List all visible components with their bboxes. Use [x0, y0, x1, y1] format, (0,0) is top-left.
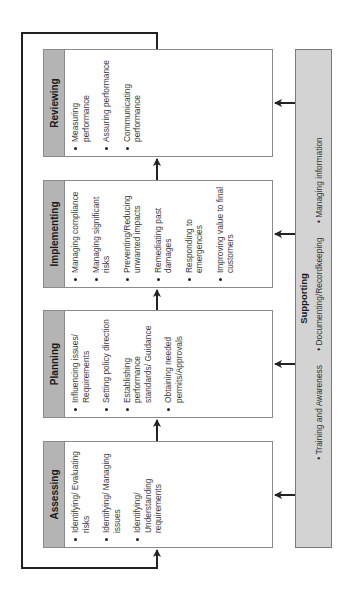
stage-item: Measuring performance: [70, 54, 91, 151]
stage-items-assessing: Identifying/ Evaluating risks Identifyin…: [70, 446, 174, 542]
process-diagram: Assessing Identifying/ Evaluating risks …: [0, 0, 350, 604]
stage-item: Preventing/Reducing unwanted impacts: [122, 185, 143, 282]
supporting-title: Supporting: [298, 50, 309, 547]
stage-box-planning: Planning Influencing issues/ Requirement…: [43, 310, 273, 418]
stage-item: Assuring performance: [101, 54, 112, 151]
stage-title-reviewing: Reviewing: [44, 50, 65, 156]
stage-box-reviewing: Reviewing Measuring performance Assuring…: [43, 49, 273, 157]
stage-item: Establishing performance standards/ Guid…: [122, 315, 154, 412]
stage-box-implementing: Implementing Managing compliance Managin…: [43, 180, 273, 288]
stage-title-planning: Planning: [44, 311, 65, 417]
supporting-item: Managing information: [314, 137, 324, 223]
supporting-item: Documenting/Recordkeeping: [314, 237, 324, 350]
stage-item: Identifying/ Managing issues: [101, 446, 122, 542]
stage-box-assessing: Assessing Identifying/ Evaluating risks …: [43, 441, 273, 548]
stage-item: Setting policy direction: [101, 315, 112, 412]
stage-items-implementing: Managing compliance Managing significant…: [70, 185, 246, 282]
stage-item: Communicating performance: [122, 54, 143, 151]
stage-title-implementing: Implementing: [44, 181, 65, 287]
stage-item: Managing compliance: [70, 185, 81, 282]
supporting-item: Training and Awareness: [314, 365, 324, 460]
stage-items-planning: Influencing issues/ Requirements Setting…: [70, 315, 194, 412]
supporting-items: Training and Awareness Documenting/Recor…: [314, 50, 324, 547]
stage-item: Improving value to final customers: [215, 185, 236, 282]
stage-item: Identifying/ Evaluating risks: [70, 446, 91, 542]
stage-item: Influencing issues/ Requirements: [70, 315, 91, 412]
supporting-bar: Supporting Training and Awareness Docume…: [295, 49, 332, 548]
stage-item: Remediating past damages: [153, 185, 174, 282]
stage-title-assessing: Assessing: [44, 442, 65, 547]
stage-item: Obtaining needed permits/Approvals: [163, 315, 184, 412]
stage-item: Managing significant risks: [91, 185, 112, 282]
stage-items-reviewing: Measuring performance Assuring performan…: [70, 54, 153, 151]
stage-item: Responding to emergencies: [184, 185, 205, 282]
stage-item: Identifying/ Understanding requirements: [132, 446, 164, 542]
